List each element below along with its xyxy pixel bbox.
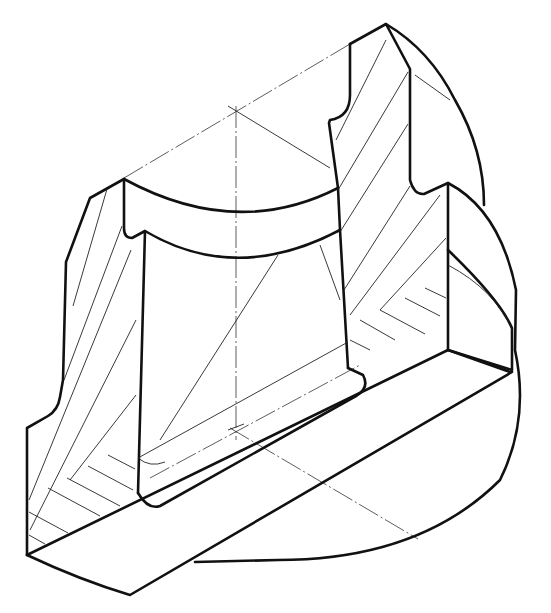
section-hatching <box>29 40 446 544</box>
isometric-section-drawing <box>0 0 551 613</box>
part-outline <box>27 24 520 595</box>
surface-lines <box>160 75 512 440</box>
drawing-canvas <box>0 0 551 613</box>
center-lines <box>124 44 418 539</box>
